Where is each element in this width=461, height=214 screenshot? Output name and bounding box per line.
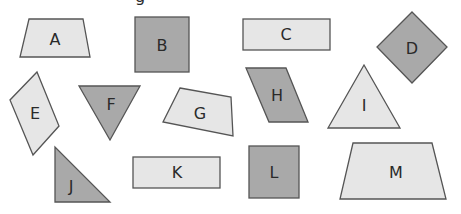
right-triangle-shape bbox=[55, 147, 110, 202]
shape-i: I bbox=[328, 65, 400, 128]
shape-label: B bbox=[157, 36, 168, 55]
top-fragment-text: g bbox=[135, 0, 145, 6]
shape-label: I bbox=[362, 96, 367, 115]
shape-e: E bbox=[10, 72, 59, 155]
shapes-diagram: g A B C D E F G H I bbox=[0, 0, 461, 214]
shape-label: G bbox=[194, 104, 206, 123]
shape-f: F bbox=[79, 86, 140, 140]
shape-a: A bbox=[20, 19, 90, 57]
shape-label: E bbox=[30, 104, 40, 123]
shape-label: F bbox=[106, 95, 115, 114]
shape-label: A bbox=[50, 30, 61, 49]
shape-d: D bbox=[377, 12, 447, 83]
shape-k: K bbox=[133, 157, 220, 188]
shape-label: H bbox=[271, 86, 283, 105]
shape-h: H bbox=[246, 68, 308, 122]
shape-b: B bbox=[135, 17, 189, 72]
shape-label: L bbox=[270, 163, 279, 182]
shape-label: M bbox=[389, 163, 403, 182]
shape-label: C bbox=[280, 25, 291, 44]
shape-label: J bbox=[68, 177, 74, 196]
shape-j: J bbox=[55, 147, 110, 202]
shape-l: L bbox=[249, 146, 299, 198]
shape-label: K bbox=[172, 163, 183, 182]
shape-c: C bbox=[243, 19, 330, 50]
shape-m: M bbox=[340, 143, 446, 199]
shape-g: G bbox=[163, 88, 233, 136]
shape-label: D bbox=[406, 39, 418, 58]
